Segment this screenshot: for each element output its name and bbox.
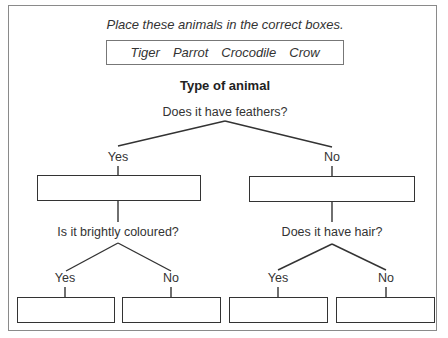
bright-no-label: No <box>163 272 179 285</box>
answer-box-hair-yes[interactable] <box>229 297 328 323</box>
hair-no-label: No <box>378 272 394 285</box>
animal-word[interactable]: Parrot <box>173 45 208 60</box>
answer-box-feathers-no[interactable] <box>249 176 415 202</box>
root-question: Does it have feathers? <box>162 106 287 119</box>
animal-word[interactable]: Crow <box>289 45 319 60</box>
instruction-text: Place these animals in the correct boxes… <box>106 18 343 31</box>
root-no-label: No <box>324 151 340 164</box>
sub-question-brightly-coloured: Is it brightly coloured? <box>57 226 179 239</box>
animal-word[interactable]: Crocodile <box>221 45 276 60</box>
diagram-title: Type of animal <box>180 79 270 92</box>
answer-box-bright-yes[interactable] <box>17 297 115 323</box>
hair-yes-label: Yes <box>268 272 288 285</box>
answer-box-hair-no[interactable] <box>336 297 435 323</box>
answer-box-feathers-yes[interactable] <box>37 175 201 201</box>
animal-word[interactable]: Tiger <box>130 45 160 60</box>
sub-question-hair: Does it have hair? <box>282 226 383 239</box>
root-yes-label: Yes <box>108 151 128 164</box>
animal-word-bank: Tiger Parrot Crocodile Crow <box>106 40 344 65</box>
bright-yes-label: Yes <box>55 272 75 285</box>
answer-box-bright-no[interactable] <box>122 297 221 323</box>
